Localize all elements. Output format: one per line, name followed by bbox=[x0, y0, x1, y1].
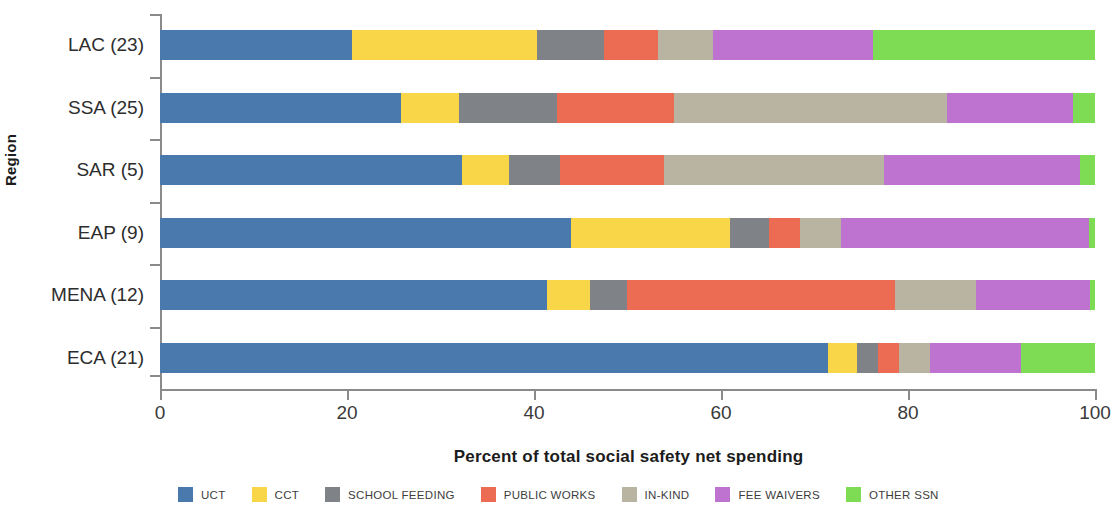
plot-area: LAC (23)SSA (25)SAR (5)EAP (9)MENA (12)E… bbox=[160, 14, 1095, 389]
legend-label: CCT bbox=[275, 489, 300, 501]
bar-segment-other-ssn bbox=[1089, 218, 1095, 248]
bar-segment-school-feeding bbox=[509, 155, 560, 185]
y-axis-tick-label: SAR (5) bbox=[76, 159, 144, 181]
legend-label: FEE WAIVERS bbox=[738, 489, 819, 501]
bar-segment-cct bbox=[828, 343, 857, 373]
x-axis-tick-label: 100 bbox=[1079, 402, 1111, 424]
bar-segment-public-works bbox=[560, 155, 664, 185]
legend-item[interactable]: CCT bbox=[252, 487, 300, 502]
bar-segment-fee-waivers bbox=[713, 30, 874, 60]
y-axis-tick bbox=[150, 77, 160, 79]
bar-segment-in-kind bbox=[674, 93, 947, 123]
bar-segment-school-feeding bbox=[857, 343, 879, 373]
y-axis-tick bbox=[150, 202, 160, 204]
bar-row: EAP (9) bbox=[160, 202, 1095, 265]
stacked-bar bbox=[160, 280, 1095, 310]
legend-swatch-icon bbox=[622, 487, 637, 502]
bar-segment-cct bbox=[462, 155, 509, 185]
bar-segment-public-works bbox=[878, 343, 899, 373]
legend-item[interactable]: SCHOOL FEEDING bbox=[325, 487, 455, 502]
bar-segment-uct bbox=[160, 155, 462, 185]
legend-swatch-icon bbox=[481, 487, 496, 502]
y-axis-tick-label: ECA (21) bbox=[67, 347, 144, 369]
x-axis-tick-label: 40 bbox=[523, 402, 544, 424]
legend-item[interactable]: OTHER SSN bbox=[846, 487, 939, 502]
bar-segment-public-works bbox=[627, 280, 894, 310]
y-axis-tick-label: EAP (9) bbox=[78, 222, 144, 244]
bar-segment-public-works bbox=[604, 30, 658, 60]
y-axis-tick bbox=[150, 375, 160, 377]
y-axis-title: Region bbox=[2, 100, 19, 220]
legend-label: SCHOOL FEEDING bbox=[348, 489, 455, 501]
bar-segment-school-feeding bbox=[590, 280, 627, 310]
bar-segment-uct bbox=[160, 30, 352, 60]
stacked-bar-chart: Region LAC (23)SSA (25)SAR (5)EAP (9)MEN… bbox=[0, 0, 1116, 510]
bar-segment-school-feeding bbox=[730, 218, 768, 248]
bar-segment-uct bbox=[160, 343, 828, 373]
y-axis-tick-label: SSA (25) bbox=[68, 97, 144, 119]
x-axis-tick-label: 80 bbox=[897, 402, 918, 424]
x-axis-tick bbox=[1095, 391, 1097, 400]
legend-swatch-icon bbox=[846, 487, 861, 502]
bar-row: LAC (23) bbox=[160, 14, 1095, 77]
legend-item[interactable]: UCT bbox=[178, 487, 226, 502]
bar-segment-fee-waivers bbox=[841, 218, 1090, 248]
x-axis-tick bbox=[908, 391, 910, 400]
x-axis-title: Percent of total social safety net spend… bbox=[160, 447, 1097, 467]
bar-segment-other-ssn bbox=[1080, 155, 1095, 185]
x-axis-line bbox=[160, 389, 1097, 391]
x-axis-tick-label: 0 bbox=[155, 402, 166, 424]
bar-segment-in-kind bbox=[899, 343, 931, 373]
y-axis-tick-label: MENA (12) bbox=[51, 284, 144, 306]
stacked-bar bbox=[160, 93, 1095, 123]
bar-segment-school-feeding bbox=[537, 30, 604, 60]
bar-segment-cct bbox=[547, 280, 590, 310]
bar-segment-cct bbox=[401, 93, 459, 123]
x-axis-tick-label: 60 bbox=[710, 402, 731, 424]
legend-label: PUBLIC WORKS bbox=[504, 489, 596, 501]
y-axis-tick bbox=[150, 264, 160, 266]
bar-segment-other-ssn bbox=[1090, 280, 1095, 310]
bar-segment-public-works bbox=[769, 218, 801, 248]
bar-row: MENA (12) bbox=[160, 264, 1095, 327]
chart-legend: UCTCCTSCHOOL FEEDINGPUBLIC WORKSIN-KINDF… bbox=[178, 487, 1098, 502]
x-axis-tick-label: 20 bbox=[336, 402, 357, 424]
x-axis-tick bbox=[721, 391, 723, 400]
bar-segment-other-ssn bbox=[1073, 93, 1095, 123]
legend-swatch-icon bbox=[715, 487, 730, 502]
bar-segment-public-works bbox=[557, 93, 674, 123]
legend-item[interactable]: PUBLIC WORKS bbox=[481, 487, 596, 502]
bar-segment-school-feeding bbox=[459, 93, 557, 123]
bar-segment-fee-waivers bbox=[930, 343, 1021, 373]
stacked-bar bbox=[160, 30, 1095, 60]
bar-segment-in-kind bbox=[800, 218, 840, 248]
bar-segment-fee-waivers bbox=[884, 155, 1080, 185]
bar-segment-uct bbox=[160, 218, 571, 248]
bar-row: SAR (5) bbox=[160, 139, 1095, 202]
y-axis-tick bbox=[150, 327, 160, 329]
y-axis-tick-label: LAC (23) bbox=[68, 34, 144, 56]
bar-segment-in-kind bbox=[895, 280, 976, 310]
stacked-bar bbox=[160, 343, 1095, 373]
legend-swatch-icon bbox=[325, 487, 340, 502]
legend-label: OTHER SSN bbox=[869, 489, 939, 501]
legend-item[interactable]: FEE WAIVERS bbox=[715, 487, 819, 502]
bar-segment-cct bbox=[571, 218, 730, 248]
stacked-bar bbox=[160, 155, 1095, 185]
legend-item[interactable]: IN-KIND bbox=[622, 487, 690, 502]
x-axis-tick bbox=[160, 391, 162, 400]
bar-segment-uct bbox=[160, 93, 401, 123]
y-axis-tick bbox=[150, 14, 160, 16]
bar-segment-other-ssn bbox=[1021, 343, 1095, 373]
y-axis-tick bbox=[150, 139, 160, 141]
bar-row: SSA (25) bbox=[160, 77, 1095, 140]
bar-row: ECA (21) bbox=[160, 327, 1095, 390]
stacked-bar bbox=[160, 218, 1095, 248]
legend-label: IN-KIND bbox=[645, 489, 690, 501]
legend-label: UCT bbox=[201, 489, 226, 501]
bar-segment-other-ssn bbox=[873, 30, 1095, 60]
legend-swatch-icon bbox=[178, 487, 193, 502]
x-axis-tick bbox=[347, 391, 349, 400]
x-axis-tick bbox=[534, 391, 536, 400]
bar-segment-fee-waivers bbox=[947, 93, 1072, 123]
